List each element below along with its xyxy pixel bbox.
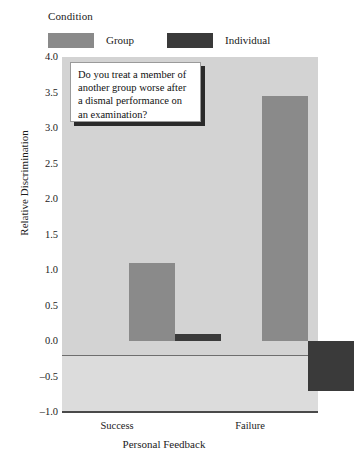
legend-swatch-individual bbox=[167, 33, 213, 48]
y-tick-label: –0.5 bbox=[2, 371, 58, 382]
legend-label-individual: Individual bbox=[225, 34, 270, 46]
y-tick-label: 3.0 bbox=[2, 123, 58, 134]
legend: Group Individual bbox=[48, 31, 318, 49]
y-axis-label: Relative Discrimination bbox=[18, 93, 30, 273]
bar-success-group bbox=[129, 263, 175, 341]
bar-failure-individual bbox=[308, 341, 354, 391]
y-tick-label: 0.0 bbox=[2, 336, 58, 347]
y-tick-label: 1.5 bbox=[2, 229, 58, 240]
bar-success-individual bbox=[175, 334, 221, 341]
y-tick-label: 1.0 bbox=[2, 265, 58, 276]
y-tick-label: 2.5 bbox=[2, 158, 58, 169]
y-tick-label: 3.5 bbox=[2, 87, 58, 98]
y-tick-label: –1.0 bbox=[2, 407, 58, 418]
legend-entry-group: Group bbox=[48, 31, 134, 49]
y-tick-label: 2.0 bbox=[2, 194, 58, 205]
legend-entry-individual: Individual bbox=[167, 31, 270, 49]
callout-box: Do you treat a member of another group w… bbox=[70, 62, 201, 122]
bar-failure-group bbox=[262, 96, 308, 341]
legend-swatch-group bbox=[48, 33, 94, 48]
x-axis-label: Personal Feedback bbox=[0, 438, 328, 450]
legend-title: Condition bbox=[48, 10, 93, 22]
x-axis-line bbox=[62, 411, 318, 413]
zero-line bbox=[62, 355, 318, 356]
x-tick-success: Success bbox=[72, 420, 162, 431]
plot-negative-band bbox=[62, 355, 318, 412]
y-tick-label: 0.5 bbox=[2, 300, 58, 311]
x-tick-failure: Failure bbox=[205, 420, 295, 431]
y-tick-label: 4.0 bbox=[2, 52, 58, 63]
legend-label-group: Group bbox=[106, 34, 134, 46]
